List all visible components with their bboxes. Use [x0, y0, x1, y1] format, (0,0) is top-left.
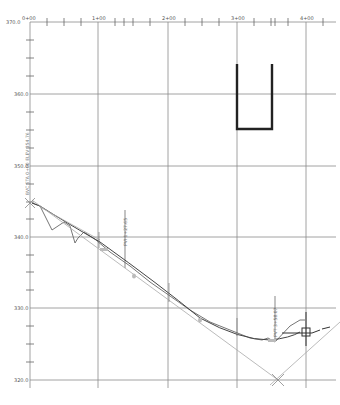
tangent-lines	[32, 200, 340, 385]
elevation-label: 320.0	[14, 377, 28, 383]
elevation-label: 370.0	[6, 19, 20, 25]
profile-point-markers	[100, 248, 276, 342]
profile-grid: 0+00 1+00 2+00 3+00 4+00 370.0 360.0 350…	[0, 0, 340, 405]
u-structure-outline	[237, 64, 272, 129]
elevation-label: 330.0	[14, 305, 28, 311]
vertical-gridlines	[30, 22, 306, 388]
station-label: 2+00	[162, 15, 176, 21]
profile-view-drawing: 0+00 1+00 2+00 3+00 4+00 370.0 360.0 350…	[0, 0, 340, 405]
elevation-label: 340.0	[14, 234, 28, 240]
station-label: 1+00	[92, 15, 106, 21]
bvc-annotation: BVC STA 0+00 ELEV 354.76	[25, 132, 30, 195]
existing-ground-line	[32, 203, 305, 342]
end-structure-icon	[282, 312, 330, 346]
station-label: 3+00	[231, 15, 245, 21]
elevation-label: 360.0	[14, 91, 28, 97]
proposed-profile-curve	[32, 203, 300, 340]
pvi-annotation: PVI 1+27.65	[123, 218, 128, 246]
pvt-annotation: PVT 3+58.07	[273, 307, 278, 337]
station-label: 4+00	[300, 15, 314, 21]
station-labels: 0+00 1+00 2+00 3+00 4+00	[22, 15, 314, 21]
elevation-labels: 370.0 360.0 350.0 340.0 330.0 320.0	[6, 19, 28, 383]
station-label: 0+00	[22, 15, 36, 21]
